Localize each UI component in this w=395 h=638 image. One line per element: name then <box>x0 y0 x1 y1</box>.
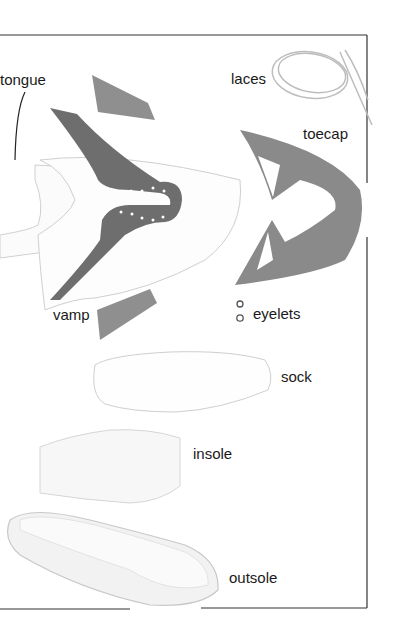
label-insole: insole <box>193 446 232 461</box>
sock-shape <box>94 352 271 412</box>
tongue-piece-top <box>92 75 155 120</box>
laces-illustration <box>269 47 372 125</box>
label-vamp: vamp <box>53 307 90 322</box>
insole-shape <box>40 430 180 503</box>
toecap-shape <box>235 130 362 285</box>
label-eyelets: eyelets <box>253 306 301 321</box>
label-laces: laces <box>231 71 266 86</box>
eyelet-icon <box>237 301 243 307</box>
label-tongue: tongue <box>0 72 46 87</box>
label-sock: sock <box>281 369 312 384</box>
label-outsole: outsole <box>229 570 277 585</box>
label-toecap: toecap <box>303 126 348 141</box>
tongue-leader-line <box>15 92 25 160</box>
eyelet-icon <box>237 315 243 321</box>
